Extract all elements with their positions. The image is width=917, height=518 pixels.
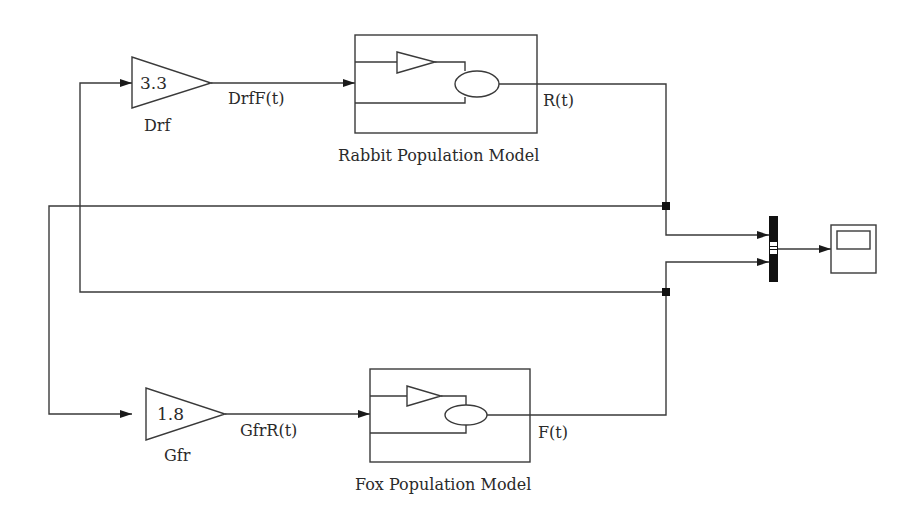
gain-name-gfr: Gfr <box>164 446 191 465</box>
feedback-line-rt-to-gfr[interactable] <box>49 206 666 414</box>
gain-block-drf[interactable]: 3.3 Drf <box>132 57 211 135</box>
scope-block[interactable] <box>831 225 876 273</box>
subsystem-fox-population-model[interactable]: Fox Population Model <box>355 369 531 494</box>
subsystem-caption-rabbit: Rabbit Population Model <box>338 146 539 165</box>
scope-screen-icon <box>837 231 870 249</box>
gain-block-gfr[interactable]: 1.8 Gfr <box>146 388 225 465</box>
signal-label-gfrr: GfrR(t) <box>240 421 297 440</box>
gain-value-drf: 3.3 <box>140 73 167 93</box>
branch-junction-rt <box>662 202 670 210</box>
branch-junction-ft <box>662 288 670 296</box>
mux-block[interactable] <box>769 216 778 282</box>
subsystem-rabbit-population-model[interactable]: Rabbit Population Model <box>338 35 539 165</box>
signal-line-ft[interactable] <box>530 262 769 415</box>
signal-label-ft: F(t) <box>538 423 568 442</box>
signal-label-drff: DrfF(t) <box>228 89 284 108</box>
gain-name-drf: Drf <box>144 116 171 135</box>
subsystem-caption-fox: Fox Population Model <box>355 475 531 494</box>
gain-value-gfr: 1.8 <box>157 404 184 424</box>
signal-label-rt: R(t) <box>543 91 574 110</box>
